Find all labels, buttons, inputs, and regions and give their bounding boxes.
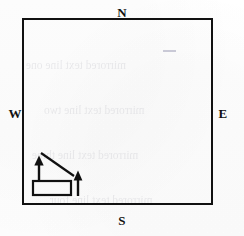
compass-label-south: S xyxy=(0,214,244,227)
diagonal-slope-line xyxy=(41,153,74,176)
object-rectangle xyxy=(33,181,71,195)
compass-label-west: W xyxy=(8,107,22,120)
compass-label-east: E xyxy=(216,107,230,120)
right-up-arrow xyxy=(74,171,83,197)
left-up-arrow xyxy=(34,156,43,182)
compass-label-north: N xyxy=(0,6,244,19)
interior-diagram xyxy=(22,140,122,205)
figure-page: mirrored text line one mirrored text lin… xyxy=(0,0,244,236)
